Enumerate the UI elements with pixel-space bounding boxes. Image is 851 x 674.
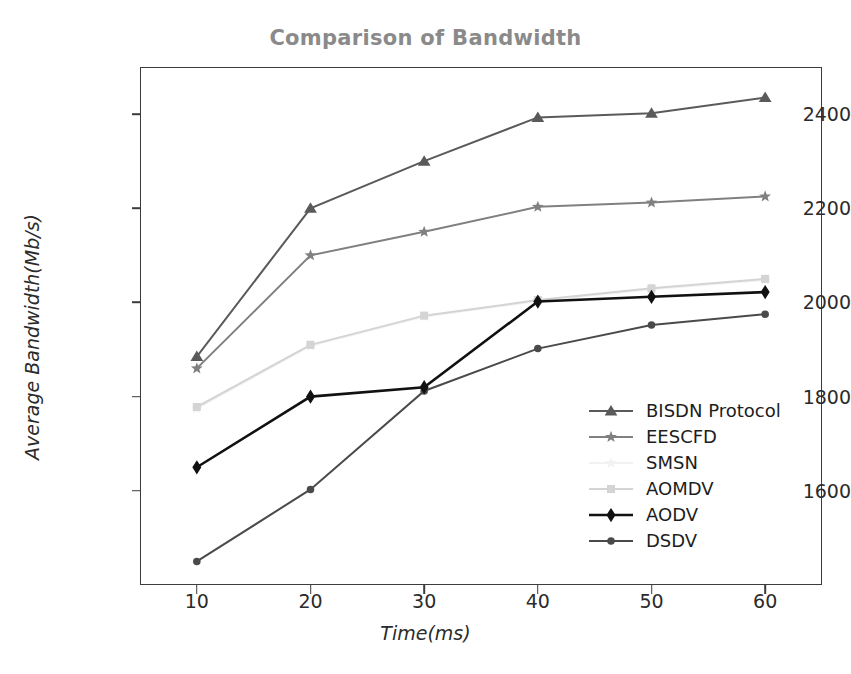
legend-label: SMSN [646, 454, 698, 472]
diamond-marker [306, 390, 315, 404]
star-marker [532, 201, 544, 212]
star-marker [605, 457, 617, 468]
y-tick-mark [132, 302, 141, 304]
y-tick-mark [132, 490, 141, 492]
chart-legend: BISDN ProtocolEESCFDSMSNAOMDVAODVDSDV [588, 398, 781, 554]
series-bisdn-protocol [190, 92, 771, 362]
y-tick-mark [132, 207, 141, 209]
y-axis-label: Average Bandwidth(Mb/s) [21, 187, 43, 487]
legend-label: DSDV [646, 532, 697, 550]
y-tick-mark [132, 396, 141, 398]
circle-marker [193, 558, 201, 566]
square-marker [420, 312, 428, 320]
circle-marker [534, 345, 542, 353]
square-marker [761, 275, 769, 283]
legend-circle-icon [588, 530, 634, 552]
star-marker [605, 431, 617, 442]
square-marker [193, 403, 201, 411]
star-marker [759, 190, 771, 201]
legend-triangle-icon [588, 400, 634, 422]
legend-item[interactable]: SMSN [588, 450, 781, 476]
circle-marker [607, 537, 615, 545]
chart-title: Comparison of Bandwidth [0, 26, 851, 50]
legend-label: AOMDV [646, 480, 714, 498]
legend-star-icon [588, 452, 634, 474]
series-line [197, 197, 765, 369]
square-marker [607, 485, 615, 493]
square-marker [306, 341, 314, 349]
star-marker [418, 226, 430, 237]
legend-label: AODV [646, 506, 698, 524]
legend-star-icon [588, 426, 634, 448]
triangle-marker [759, 92, 772, 103]
legend-item[interactable]: DSDV [588, 528, 781, 554]
legend-item[interactable]: AOMDV [588, 476, 781, 502]
star-marker [646, 196, 658, 207]
x-tick-mark [196, 585, 198, 594]
legend-diamond-icon [588, 504, 634, 526]
legend-square-icon [588, 478, 634, 500]
series-line [197, 98, 765, 357]
x-tick-mark [310, 585, 312, 594]
circle-marker [761, 310, 769, 318]
y-tick-label: 2000 [783, 291, 851, 313]
diamond-marker [607, 508, 616, 522]
x-tick-mark [423, 585, 425, 594]
diamond-marker [761, 285, 770, 299]
x-tick-mark [651, 585, 653, 594]
y-tick-mark [132, 113, 141, 115]
y-tick-label: 2200 [783, 197, 851, 219]
y-tick-label: 1800 [783, 386, 851, 408]
legend-label: BISDN Protocol [646, 402, 781, 420]
x-tick-mark [537, 585, 539, 594]
y-tick-label: 2400 [783, 103, 851, 125]
triangle-marker [304, 202, 317, 213]
legend-item[interactable]: EESCFD [588, 424, 781, 450]
x-tick-mark [764, 585, 766, 594]
x-axis-label: Time(ms) [0, 622, 851, 644]
legend-item[interactable]: BISDN Protocol [588, 398, 781, 424]
legend-item[interactable]: AODV [588, 502, 781, 528]
legend-label: EESCFD [646, 428, 717, 446]
y-tick-label: 1600 [783, 480, 851, 502]
diamond-marker [192, 460, 201, 474]
circle-marker [648, 321, 656, 329]
circle-marker [307, 486, 315, 494]
bandwidth-comparison-chart: Comparison of Bandwidth 1600180020002200… [0, 0, 851, 674]
